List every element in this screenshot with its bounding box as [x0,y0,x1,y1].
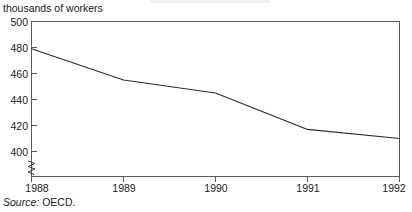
source-value: OECD. [39,196,75,208]
y-tick-label-500: 500 [10,16,28,28]
figure-container: thousands of workers 500 480 460 440 420… [0,0,412,212]
x-tick-label-1991: 1991 [296,182,320,194]
y-axis-tick-labels: 500 480 460 440 420 400 [10,16,28,158]
y-tick-label-420: 420 [10,120,28,132]
x-tick-label-1992: 1992 [382,182,406,194]
y-axis-ticks [32,22,37,152]
y-tick-label-440: 440 [10,94,28,106]
data-series-line [32,49,400,139]
x-axis-ticks [32,177,400,182]
y-tick-label-480: 480 [10,42,28,54]
line-chart-plot: 500 480 460 440 420 400 1988 1989 1990 1… [0,0,412,212]
source-label: Source: [3,196,39,208]
x-tick-label-1990: 1990 [204,182,228,194]
source-note: Source:OECD. [3,196,75,209]
y-tick-label-460: 460 [10,68,28,80]
x-tick-label-1989: 1989 [112,182,136,194]
x-axis-tick-labels: 1988 1989 1990 1991 1992 [25,182,406,194]
plot-frame [32,22,400,177]
x-tick-label-1988: 1988 [25,182,49,194]
y-tick-label-400: 400 [10,146,28,158]
